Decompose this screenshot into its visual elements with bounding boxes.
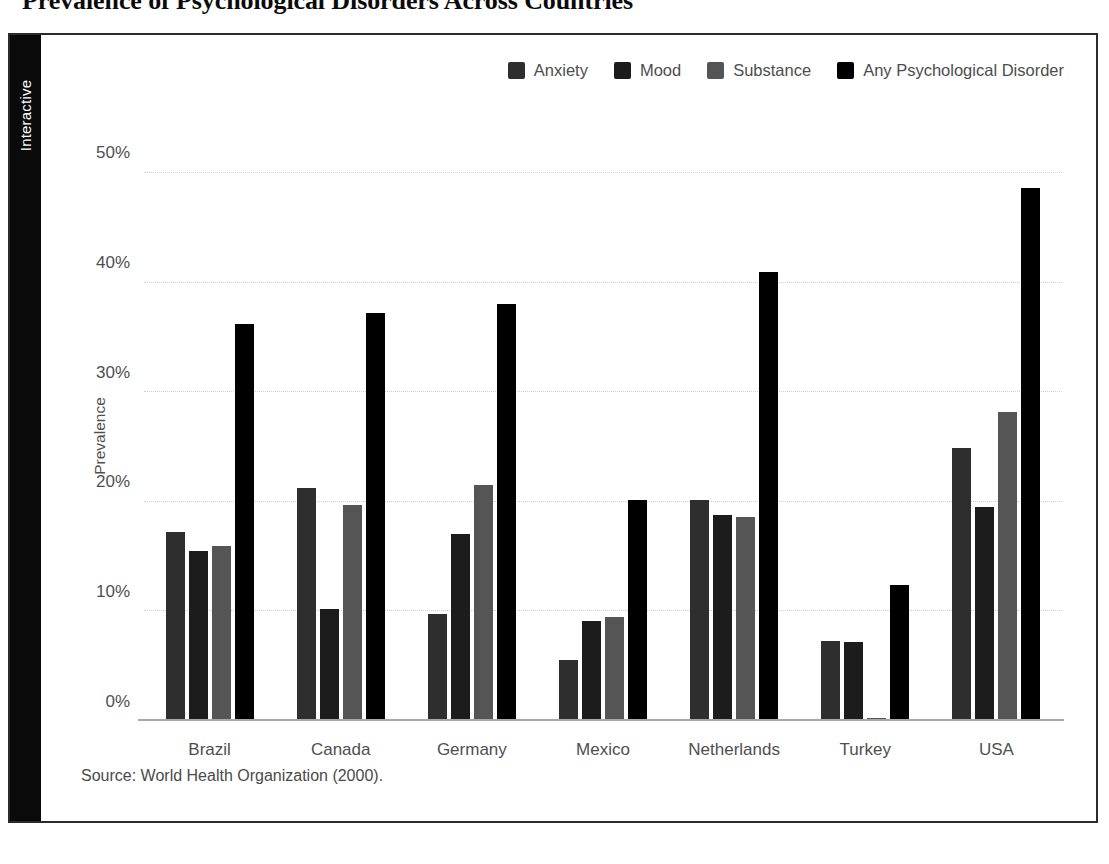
bar-group-bars (931, 151, 1062, 721)
bar[interactable] (474, 485, 493, 721)
bar[interactable] (759, 272, 778, 721)
legend-swatch-icon (837, 62, 854, 79)
y-axis-tick-label: 50% (96, 143, 130, 163)
bar[interactable] (212, 546, 231, 721)
figure-frame: Interactive AnxietyMoodSubstanceAny Psyc… (8, 33, 1098, 823)
x-axis-tick-label: Canada (275, 740, 406, 760)
bar[interactable] (451, 534, 470, 721)
bar[interactable] (320, 609, 339, 721)
bar-group: Germany (406, 151, 537, 721)
bar[interactable] (297, 488, 316, 721)
bar[interactable] (690, 500, 709, 721)
bar[interactable] (736, 517, 755, 721)
bar[interactable] (582, 621, 601, 721)
bar-group-bars (275, 151, 406, 721)
bar[interactable] (428, 614, 447, 721)
legend-item[interactable]: Mood (614, 61, 681, 80)
y-axis-tick-label: 10% (96, 582, 130, 602)
legend-swatch-icon (707, 62, 724, 79)
bar-group-bars (800, 151, 931, 721)
y-axis-tick-label: 30% (96, 363, 130, 383)
x-axis-tick-label: Brazil (144, 740, 275, 760)
chart-legend: AnxietyMoodSubstanceAny Psychological Di… (41, 61, 1096, 80)
interactive-side-tab[interactable]: Interactive (10, 35, 41, 821)
bar[interactable] (497, 304, 516, 721)
bar-group: Netherlands (669, 151, 800, 721)
bar[interactable] (235, 324, 254, 721)
bar[interactable] (366, 313, 385, 721)
bar-group: Brazil (144, 151, 275, 721)
source-note: Source: World Health Organization (2000)… (81, 767, 383, 785)
x-axis-tick-label: Netherlands (669, 740, 800, 760)
bar[interactable] (559, 660, 578, 721)
x-axis-tick-label: Turkey (800, 740, 931, 760)
y-axis-tick-label: 20% (96, 472, 130, 492)
x-axis-tick-label: Germany (406, 740, 537, 760)
legend-item[interactable]: Anxiety (508, 61, 588, 80)
page-title: Prevalence of Psychological Disorders Ac… (22, 0, 1082, 20)
bar-group-bars (144, 151, 275, 721)
legend-item[interactable]: Substance (707, 61, 811, 80)
interactive-side-tab-label: Interactive (17, 56, 34, 176)
bar[interactable] (952, 448, 971, 721)
y-axis-tick-label: 0% (105, 692, 130, 712)
legend-item-label: Substance (733, 61, 811, 80)
bar[interactable] (975, 507, 994, 721)
bar[interactable] (844, 642, 863, 721)
bar-group-bars (537, 151, 668, 721)
legend-swatch-icon (508, 62, 525, 79)
bar[interactable] (998, 412, 1017, 721)
legend-item[interactable]: Any Psychological Disorder (837, 61, 1064, 80)
legend-swatch-icon (614, 62, 631, 79)
bar-group: USA (931, 151, 1062, 721)
bar[interactable] (713, 515, 732, 721)
bar-group: Turkey (800, 151, 931, 721)
y-axis-label: Prevalence (91, 397, 109, 475)
bar-group: Canada (275, 151, 406, 721)
legend-item-label: Mood (640, 61, 681, 80)
bar[interactable] (821, 641, 840, 721)
bar-group-bars (406, 151, 537, 721)
bar[interactable] (628, 500, 647, 721)
x-axis-tick-label: USA (931, 740, 1062, 760)
bar[interactable] (166, 532, 185, 721)
x-axis-line (138, 719, 1064, 721)
legend-item-label: Any Psychological Disorder (863, 61, 1064, 80)
bar[interactable] (1021, 188, 1040, 721)
y-axis-tick-label: 40% (96, 253, 130, 273)
chart-area: AnxietyMoodSubstanceAny Psychological Di… (41, 35, 1096, 821)
bar[interactable] (343, 505, 362, 721)
x-axis-tick-label: Mexico (537, 740, 668, 760)
bar-group-bars (669, 151, 800, 721)
bar[interactable] (189, 551, 208, 721)
bar[interactable] (890, 585, 909, 721)
legend-item-label: Anxiety (534, 61, 588, 80)
plot-area: Prevalence 0%10%20%30%40%50% BrazilCanad… (144, 151, 1062, 721)
bar-group: Mexico (537, 151, 668, 721)
bar[interactable] (605, 617, 624, 721)
